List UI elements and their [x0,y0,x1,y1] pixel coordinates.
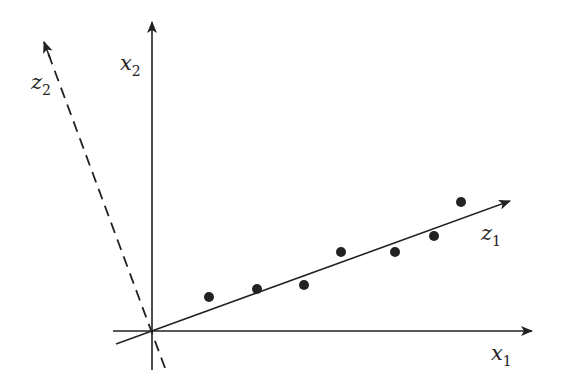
z2-axis [44,42,165,368]
data-point [336,247,346,257]
x2-label: x2 [120,51,141,79]
data-points [204,197,466,302]
pca-axes-diagram: x2 z2 z1 x1 [0,0,567,388]
z1-label: z1 [480,221,501,249]
data-point [252,284,262,294]
data-point [429,231,439,241]
diagram-canvas: x2 z2 z1 x1 [0,0,567,388]
data-point [456,197,466,207]
x1-label: x1 [491,341,512,369]
data-point [204,292,214,302]
data-point [390,247,400,257]
z1-axis [116,201,510,344]
data-point [299,280,309,290]
z2-label: z2 [30,70,51,98]
